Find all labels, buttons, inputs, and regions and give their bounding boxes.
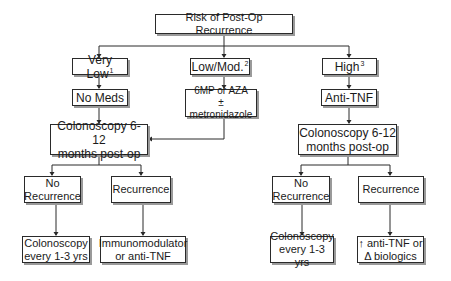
title-box: Risk of Post-Op Recurrence (155, 14, 293, 34)
risk-high-label: High (335, 60, 360, 74)
right-no-recurrence-line2: Recurrence (273, 190, 330, 203)
colonoscopy-right-line2: months post-op (306, 140, 389, 154)
no-meds-box: No Meds (72, 89, 128, 106)
colonoscopy-left-line1: Colonoscopy 6-12 (51, 119, 147, 147)
right-escalation-line2: Δ biologics (364, 250, 417, 263)
risk-low-mod-box: Low/Mod.2 (190, 58, 250, 75)
treatment-line2: ± metronidazole (186, 97, 256, 121)
right-no-recurrence-box: No Recurrence (272, 176, 330, 203)
risk-very-low-label: Very Low (87, 53, 112, 81)
footnote-3: 3 (360, 60, 364, 67)
anti-tnf-box: Anti-TNF (321, 89, 377, 106)
left-no-recurrence-line2: Recurrence (24, 190, 81, 203)
left-recurrence-box: Recurrence (111, 176, 171, 203)
right-surveillance-box: Colonoscopy every 1-3 yrs (270, 236, 334, 263)
colonoscopy-right-line1: Colonoscopy 6-12 (299, 126, 396, 140)
right-recurrence-box: Recurrence (358, 176, 424, 203)
left-no-recurrence-line1: No (45, 177, 59, 190)
right-escalation-line1: ↑ anti-TNF or (358, 237, 422, 250)
right-no-recurrence-line1: No (294, 177, 308, 190)
title-text: Risk of Post-Op Recurrence (156, 11, 292, 37)
left-escalation-box: Immunomodulator or anti-TNF (100, 236, 186, 263)
no-meds-label: No Meds (76, 91, 124, 105)
risk-low-mod-label: Low/Mod. (192, 60, 244, 74)
immunomodulator-box: 6MP or AZA ± metronidazole (185, 89, 257, 117)
left-no-recurrence-box: No Recurrence (24, 176, 81, 203)
colonoscopy-left-box: Colonoscopy 6-12 months post-op (50, 124, 148, 155)
left-surveillance-line1: Colonoscopy (24, 237, 88, 250)
treatment-line1: 6MP or AZA (194, 85, 248, 97)
anti-tnf-label: Anti-TNF (325, 91, 373, 105)
risk-high-box: High3 (322, 58, 377, 75)
left-recurrence-label: Recurrence (113, 183, 170, 196)
footnote-1: 1 (110, 67, 114, 74)
footnote-2: 2 (245, 60, 249, 67)
left-surveillance-line2: every 1-3 yrs (24, 250, 88, 263)
left-escalation-line1: Immunomodulator (99, 237, 188, 250)
right-surveillance-line2: every 1-3 yrs (271, 243, 333, 269)
right-escalation-box: ↑ anti-TNF or Δ biologics (357, 236, 424, 263)
left-surveillance-box: Colonoscopy every 1-3 yrs (22, 236, 90, 263)
colonoscopy-left-line2: months post-op (58, 147, 141, 161)
risk-very-low-box: Very Low1 (72, 58, 128, 75)
right-surveillance-line1: Colonoscopy (270, 230, 334, 243)
right-recurrence-label: Recurrence (363, 183, 420, 196)
left-escalation-line2: or anti-TNF (115, 250, 171, 263)
colonoscopy-right-box: Colonoscopy 6-12 months post-op (298, 124, 397, 155)
